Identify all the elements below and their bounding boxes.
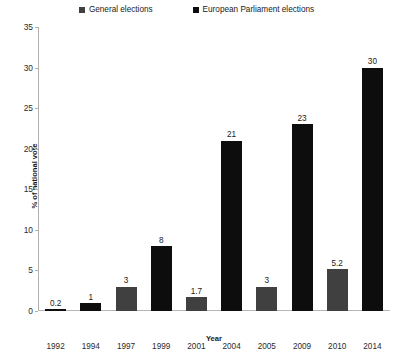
x-axis-tick-label: 2004 bbox=[222, 342, 240, 351]
bar-chart: General electionsEuropean Parliament ele… bbox=[0, 0, 393, 351]
y-axis-tick bbox=[35, 68, 38, 69]
legend-entry[interactable]: European Parliament elections bbox=[193, 6, 315, 14]
plot-area: 051015202530350.219921199431997819991.72… bbox=[38, 27, 390, 311]
x-axis-title: Year bbox=[38, 334, 390, 343]
x-axis-tick-label: 1992 bbox=[46, 342, 64, 351]
legend-entry[interactable]: General elections bbox=[79, 6, 153, 14]
y-axis-tick bbox=[35, 311, 38, 312]
y-axis-tick bbox=[35, 189, 38, 190]
bar-value-label: 0.2 bbox=[50, 300, 61, 308]
x-axis-tick-label: 1994 bbox=[82, 342, 100, 351]
y-axis-tick-label: 0 bbox=[28, 306, 33, 316]
y-axis-tick-label: 30 bbox=[24, 63, 33, 73]
bar-value-label: 23 bbox=[297, 115, 306, 123]
bar[interactable]: 1 bbox=[80, 303, 101, 311]
x-axis-tick-label: 2009 bbox=[293, 342, 311, 351]
y-axis-tick bbox=[35, 27, 38, 28]
bar[interactable]: 3 bbox=[256, 287, 277, 311]
legend-label: European Parliament elections bbox=[203, 6, 315, 14]
y-axis-tick-label: 5 bbox=[28, 265, 33, 275]
y-axis-tick bbox=[35, 149, 38, 150]
x-axis-tick-label: 1999 bbox=[152, 342, 170, 351]
bar-value-label: 5.2 bbox=[331, 260, 342, 268]
legend-swatch-icon bbox=[79, 7, 85, 13]
y-axis-tick-label: 25 bbox=[24, 103, 33, 113]
y-axis-tick bbox=[35, 108, 38, 109]
bar-value-label: 30 bbox=[368, 58, 377, 66]
y-axis-tick bbox=[35, 230, 38, 231]
bar-value-label: 3 bbox=[265, 277, 270, 285]
x-axis-tick-label: 1997 bbox=[117, 342, 135, 351]
x-axis-tick-label: 2001 bbox=[187, 342, 205, 351]
bar[interactable]: 0.2 bbox=[45, 309, 66, 311]
legend-swatch-icon bbox=[193, 7, 199, 13]
x-axis-tick-label: 2010 bbox=[328, 342, 346, 351]
x-axis-tick-label: 2005 bbox=[258, 342, 276, 351]
x-axis-tick-label: 2014 bbox=[363, 342, 381, 351]
y-axis-tick-label: 15 bbox=[24, 184, 33, 194]
bar[interactable]: 23 bbox=[292, 124, 313, 311]
y-axis-tick-label: 10 bbox=[24, 225, 33, 235]
y-axis-tick bbox=[35, 270, 38, 271]
bar-value-label: 1.7 bbox=[191, 288, 202, 296]
bar-value-label: 21 bbox=[227, 131, 236, 139]
y-axis-line bbox=[38, 27, 39, 311]
y-axis-tick-label: 20 bbox=[24, 144, 33, 154]
bar[interactable]: 8 bbox=[151, 246, 172, 311]
legend-label: General elections bbox=[89, 6, 153, 14]
bar-value-label: 1 bbox=[89, 294, 94, 302]
bar[interactable]: 30 bbox=[362, 68, 383, 311]
bar[interactable]: 1.7 bbox=[186, 297, 207, 311]
chart-legend: General electionsEuropean Parliament ele… bbox=[0, 2, 393, 18]
y-axis-tick-label: 35 bbox=[24, 22, 33, 32]
bar[interactable]: 21 bbox=[221, 141, 242, 311]
bar-value-label: 3 bbox=[124, 277, 129, 285]
bar[interactable]: 5.2 bbox=[327, 269, 348, 311]
bar[interactable]: 3 bbox=[116, 287, 137, 311]
bar-value-label: 8 bbox=[159, 237, 164, 245]
